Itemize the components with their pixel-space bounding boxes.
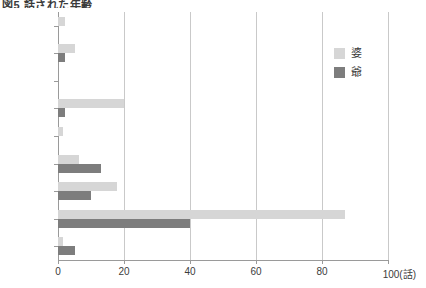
- legend-swatch-icon: [334, 67, 345, 78]
- chart-title: 図5 話された年齢: [2, 0, 93, 8]
- chart-legend: 婆爺: [334, 46, 380, 84]
- y-tick-mark: [54, 26, 58, 27]
- bar: [58, 99, 124, 108]
- bar-chart: 図5 話された年齢 020406080100(話) 81歳以上80歳72歳70歳…: [0, 0, 426, 288]
- gridline: [388, 12, 389, 260]
- bar: [58, 155, 79, 164]
- x-tick-mark: [58, 260, 59, 264]
- bar: [58, 182, 117, 191]
- x-axis-line: [58, 260, 389, 261]
- x-tick-mark: [322, 260, 323, 264]
- legend-item[interactable]: 婆: [334, 46, 380, 61]
- gridline: [190, 12, 191, 260]
- bar: [58, 246, 75, 255]
- x-tick-mark: [124, 260, 125, 264]
- x-tick-label: 100(話): [383, 266, 416, 281]
- bar: [58, 127, 63, 136]
- x-tick-label: 20: [118, 266, 129, 277]
- bar: [58, 44, 75, 53]
- bar: [58, 164, 101, 173]
- x-tick-label: 0: [55, 266, 61, 277]
- bar: [58, 237, 63, 246]
- x-tick-mark: [388, 260, 389, 264]
- x-tick-label: 40: [184, 266, 195, 277]
- gridline: [322, 12, 323, 260]
- bar: [58, 219, 190, 228]
- bar: [58, 17, 65, 26]
- gridline: [256, 12, 257, 260]
- y-tick-mark: [54, 81, 58, 82]
- x-tick-mark: [190, 260, 191, 264]
- bar: [58, 53, 65, 62]
- x-tick-label: 60: [250, 266, 261, 277]
- x-tick-mark: [256, 260, 257, 264]
- x-tick-label: 80: [316, 266, 327, 277]
- y-tick-mark: [54, 136, 58, 137]
- legend-item[interactable]: 爺: [334, 65, 380, 80]
- bar: [58, 108, 65, 117]
- legend-label: 婆: [351, 48, 362, 59]
- bar: [58, 191, 91, 200]
- bar: [58, 210, 345, 219]
- legend-label: 爺: [351, 67, 362, 78]
- legend-swatch-icon: [334, 48, 345, 59]
